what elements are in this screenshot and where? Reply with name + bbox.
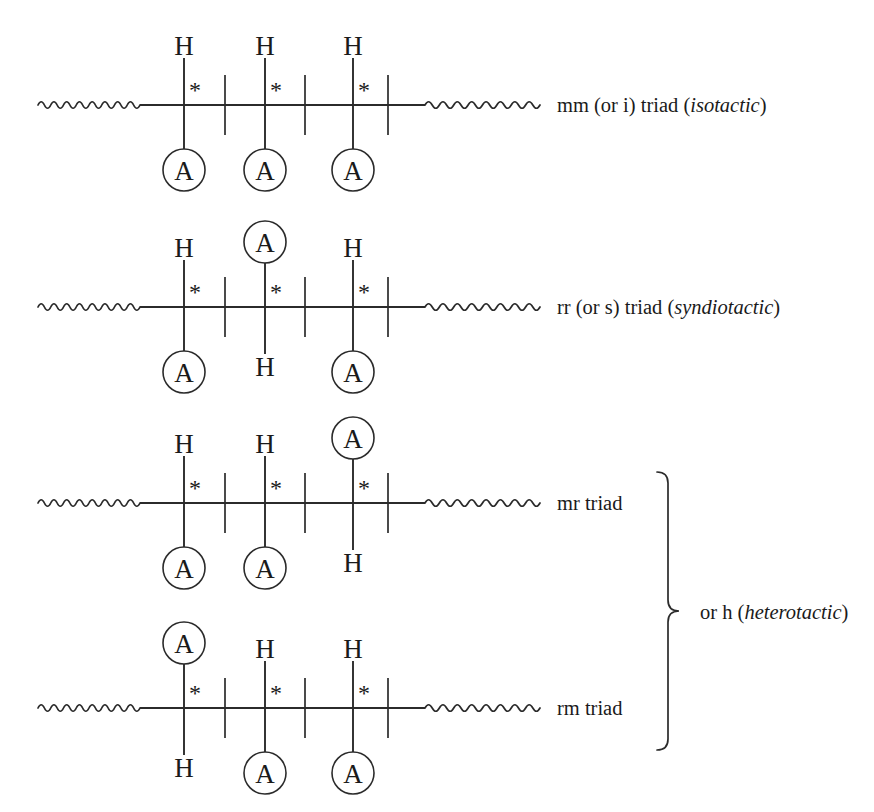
stereocenter-unit-3: *HA xyxy=(332,634,374,794)
stereocenter-unit-2: *HA xyxy=(244,429,286,589)
chirality-asterisk: * xyxy=(270,279,282,305)
stereocenter-unit-1: *HA xyxy=(163,233,205,393)
chain-row-mr-triad: *HA*HA*AH xyxy=(38,417,540,589)
substituent-label-down: A xyxy=(174,156,194,186)
chain-row-rr-triad: *HA*AH*HA xyxy=(38,221,540,393)
hydrogen-label-up: H xyxy=(174,429,194,459)
stereocenter-unit-2: *AH xyxy=(244,221,286,382)
chirality-asterisk: * xyxy=(358,279,370,305)
hydrogen-label-up: H xyxy=(343,233,363,263)
chirality-asterisk: * xyxy=(358,475,370,501)
row-label-rr-triad: rr (or s) triad (syndiotactic) xyxy=(557,297,780,318)
chain-end-squiggle-right xyxy=(425,705,540,712)
hydrogen-label-up: H xyxy=(174,233,194,263)
chirality-asterisk: * xyxy=(189,77,201,103)
hydrogen-label-down: H xyxy=(174,753,194,783)
chain-end-squiggle-right xyxy=(425,102,540,109)
substituent-label-down: A xyxy=(255,156,275,186)
tacticity-figure: *HA*HA*HA*HA*AH*HA*HA*HA*AH*AH*HA*HA mm … xyxy=(0,0,874,812)
chirality-asterisk: * xyxy=(270,680,282,706)
row-label-mm-triad: mm (or i) triad (isotactic) xyxy=(557,95,767,116)
heterotactic-brace xyxy=(657,472,679,750)
chain-row-rm-triad: *AH*HA*HA xyxy=(38,622,540,794)
chain-end-squiggle-right xyxy=(425,500,540,507)
stereocenter-unit-3: *AH xyxy=(332,417,374,578)
chain-end-squiggle-left xyxy=(38,304,140,311)
hydrogen-label-up: H xyxy=(343,31,363,61)
stereocenter-unit-1: *AH xyxy=(163,622,205,783)
chain-end-squiggle-right xyxy=(425,304,540,311)
row-label-mr-triad: mr triad xyxy=(557,493,622,514)
chain-row-mm-triad: *HA*HA*HA xyxy=(38,31,540,191)
chain-rows-layer: *HA*HA*HA*HA*AH*HA*HA*HA*AH*AH*HA*HA xyxy=(38,31,540,794)
group-label-emphasis: heterotactic xyxy=(744,601,841,623)
stereocenter-unit-3: *HA xyxy=(332,233,374,393)
substituent-label-down: A xyxy=(343,156,363,186)
chirality-asterisk: * xyxy=(189,279,201,305)
hydrogen-label-up: H xyxy=(343,634,363,664)
hydrogen-label-up: H xyxy=(255,634,275,664)
substituent-label-up: A xyxy=(174,629,194,659)
row-label-emphasis: syndiotactic xyxy=(674,296,773,318)
row-label-emphasis: isotactic xyxy=(690,94,759,116)
substituent-label-up: A xyxy=(343,424,363,454)
chirality-asterisk: * xyxy=(270,77,282,103)
substituent-label-down: A xyxy=(174,358,194,388)
stereocenter-unit-2: *HA xyxy=(244,634,286,794)
chirality-asterisk: * xyxy=(189,475,201,501)
stereocenter-unit-1: *HA xyxy=(163,429,205,589)
substituent-label-down: A xyxy=(343,358,363,388)
chirality-asterisk: * xyxy=(270,475,282,501)
chirality-asterisk: * xyxy=(189,680,201,706)
substituent-label-down: A xyxy=(255,554,275,584)
chirality-asterisk: * xyxy=(358,680,370,706)
substituent-label-down: A xyxy=(174,554,194,584)
group-brace-layer xyxy=(657,472,679,750)
chirality-asterisk: * xyxy=(358,77,370,103)
polymer-chain-diagram: *HA*HA*HA*HA*AH*HA*HA*HA*AH*AH*HA*HA xyxy=(0,0,874,812)
hydrogen-label-down: H xyxy=(255,352,275,382)
substituent-label-down: A xyxy=(343,759,363,789)
stereocenter-unit-2: *HA xyxy=(244,31,286,191)
stereocenter-unit-3: *HA xyxy=(332,31,374,191)
hydrogen-label-up: H xyxy=(174,31,194,61)
row-label-rm-triad: rm triad xyxy=(557,698,622,719)
chain-end-squiggle-left xyxy=(38,500,140,507)
chain-end-squiggle-left xyxy=(38,705,140,712)
hydrogen-label-up: H xyxy=(255,429,275,459)
substituent-label-up: A xyxy=(255,228,275,258)
chain-end-squiggle-left xyxy=(38,102,140,109)
hydrogen-label-up: H xyxy=(255,31,275,61)
hydrogen-label-down: H xyxy=(343,548,363,578)
substituent-label-down: A xyxy=(255,759,275,789)
stereocenter-unit-1: *HA xyxy=(163,31,205,191)
group-label-heterotactic: or h (heterotactic) xyxy=(700,602,848,623)
